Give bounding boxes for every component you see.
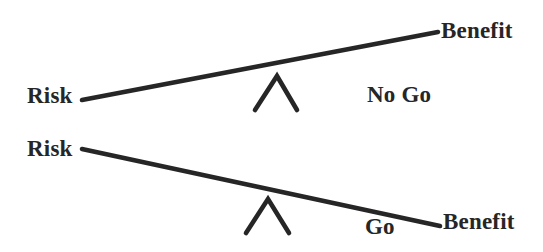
bottom-fulcrum-caret-icon xyxy=(246,199,289,233)
risk-benefit-figure: Risk Benefit No Go Risk Go Benefit xyxy=(0,0,543,252)
bottom-scale-decision-label-go: Go xyxy=(365,215,395,238)
bottom-scale-benefit-label: Benefit xyxy=(443,210,515,233)
top-scale-benefit-label: Benefit xyxy=(441,19,513,42)
top-scale-risk-label: Risk xyxy=(27,84,73,107)
top-scale-decision-label-no-go: No Go xyxy=(367,83,431,106)
bottom-scale-risk-label: Risk xyxy=(27,137,73,160)
top-fulcrum-caret-icon xyxy=(255,76,297,110)
